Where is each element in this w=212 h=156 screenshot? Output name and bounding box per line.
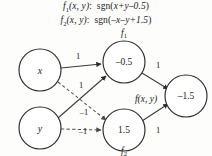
formula-f1-args: (x, y) <box>69 1 89 11</box>
network-diagram: x y –0.5 1.5 –1.5 f1 f2 1 1 –1 –1 <box>0 26 212 156</box>
node-f1-caption-sub: 1 <box>124 32 127 39</box>
formula-f1-expr-suffix: ) <box>146 1 149 11</box>
edge-label-x-f2: –1 <box>79 107 89 117</box>
edge-f2-to-out <box>142 104 168 121</box>
formula-block: f1(x, y): sgn(x+y–0.5) f2(x, y): sgn(–x–… <box>0 1 212 29</box>
figure-root: f1(x, y): sgn(x+y–0.5) f2(x, y): sgn(–x–… <box>0 0 212 156</box>
node-output-value: –1.5 <box>177 91 195 101</box>
node-input-y-label: y <box>37 123 43 134</box>
node-input-x-label: x <box>37 65 43 76</box>
output-function-label: f(x, y) <box>135 94 157 105</box>
formula-f1-expr-body: x+y–0.5 <box>114 1 146 11</box>
formula-f1-colon: : <box>89 1 92 11</box>
node-hidden-f2-value: 1.5 <box>118 125 130 135</box>
formula-f2-colon: : <box>87 15 90 25</box>
node-f1-caption: f1 <box>121 28 127 39</box>
edge-x-to-f1 <box>61 64 101 68</box>
edge-f1-to-out <box>142 73 168 89</box>
node-hidden-f1-value: –0.5 <box>115 57 133 67</box>
formula-f2-expr-body: –x–y+1.5 <box>111 15 148 25</box>
formula-f2-args: (x, y) <box>67 15 87 25</box>
edge-label-f1-out: 1 <box>156 60 160 70</box>
edge-label-y-f2: –1 <box>78 126 88 136</box>
edge-label-y-f1: 1 <box>79 80 83 90</box>
edge-label-x-f1: 1 <box>76 51 80 61</box>
node-f2-caption-sub: 2 <box>124 150 127 156</box>
formula-f1-expr-prefix: sgn( <box>97 1 114 11</box>
formula-line-f1: f1(x, y): sgn(x+y–0.5) <box>0 1 212 15</box>
formula-f2-expr-prefix: sgn( <box>94 15 111 25</box>
edge-label-f2-out: 1 <box>156 125 160 135</box>
formula-f2-expr-suffix: ) <box>148 15 151 25</box>
